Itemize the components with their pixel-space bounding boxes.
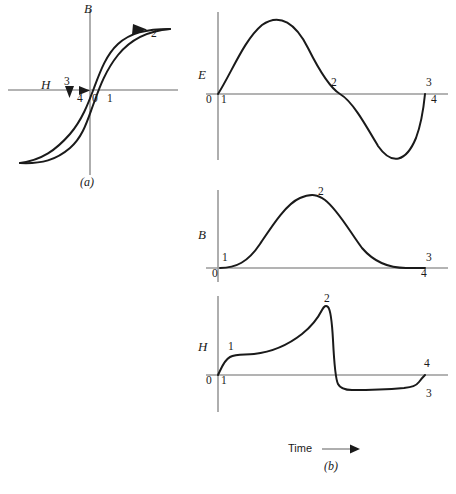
panel-a-origin-label: 0 — [92, 93, 98, 105]
panel-a-point-2-label: 2 — [151, 28, 157, 40]
time-axis-label: Time — [288, 443, 312, 454]
e-axis-label: E — [198, 68, 206, 81]
panel-a-h-axis-label: H — [41, 78, 50, 91]
panel-a-point-1-label: 1 — [107, 93, 113, 105]
panel-a-point-4-label: 4 — [77, 93, 83, 105]
h-axis-point-1-label: 1 — [221, 375, 227, 387]
h-point-2-label: 2 — [324, 293, 330, 305]
b-point-4-label: 4 — [421, 268, 427, 280]
h-curve-point-1-label: 1 — [228, 341, 234, 353]
hysteresis-figure: B H 2 3 4 0 1 (a) E 0 1 2 3 4 B 0 1 2 3 … — [0, 0, 456, 494]
e-point-4-label: 4 — [431, 94, 437, 106]
time-arrow-icon — [322, 445, 360, 454]
panel-b-caption: (b) — [324, 460, 338, 472]
e-point-2-label: 2 — [331, 77, 337, 89]
b-origin-label: 0 — [212, 268, 218, 280]
panel-b-e-axes — [206, 12, 448, 160]
h-origin-label: 0 — [206, 375, 212, 387]
e-waveform — [218, 20, 425, 159]
e-origin-label: 0 — [206, 94, 212, 106]
h-axis-label: H — [198, 340, 207, 353]
b-axis-label: B — [198, 228, 206, 241]
panel-a-arrow-point-3 — [65, 86, 74, 98]
e-point-1-label: 1 — [221, 94, 227, 106]
h-point-3-label: 3 — [426, 388, 432, 400]
h-waveform — [218, 306, 425, 390]
panel-a-b-axis-label: B — [84, 2, 92, 15]
b-point-2-label: 2 — [318, 186, 324, 198]
e-point-3-label: 3 — [426, 77, 432, 89]
b-point-1-label: 1 — [222, 252, 228, 264]
panel-a-point-3-label: 3 — [64, 76, 70, 88]
panel-a-caption: (a) — [80, 176, 94, 188]
b-waveform — [220, 195, 425, 268]
h-point-4-label: 4 — [424, 358, 430, 370]
b-point-3-label: 3 — [426, 252, 432, 264]
